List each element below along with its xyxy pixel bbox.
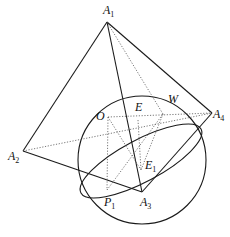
label-e1: E1 <box>144 158 156 174</box>
label-a1: A1 <box>102 3 114 19</box>
svg-text:A2: A2 <box>7 149 19 165</box>
label-a4: A4 <box>212 107 224 123</box>
label-e: E <box>134 100 143 114</box>
label-w: W <box>168 92 179 106</box>
svg-text:A1: A1 <box>102 3 114 19</box>
svg-text:A4: A4 <box>212 107 224 123</box>
svg-text:W: W <box>168 92 179 106</box>
svg-text:E1: E1 <box>144 158 156 174</box>
svg-text:E: E <box>134 100 143 114</box>
hidden-line-o-p1 <box>107 117 108 190</box>
label-o: O <box>96 109 105 123</box>
svg-text:A3: A3 <box>139 195 151 211</box>
edge-a2-a3 <box>23 151 142 192</box>
svg-text:P1: P1 <box>103 195 115 211</box>
label-a3: A3 <box>139 195 151 211</box>
label-a2: A2 <box>7 149 19 165</box>
svg-text:O: O <box>96 109 105 123</box>
label-p1: P1 <box>103 195 115 211</box>
geometry-diagram: A1 A2 A3 A4 O E W E1 P1 <box>0 0 230 237</box>
edge-a1-a2 <box>23 22 107 151</box>
